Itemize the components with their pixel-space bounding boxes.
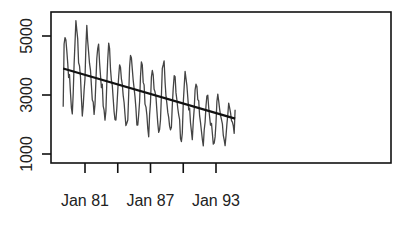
y-tick-label: 5000 (18, 18, 35, 54)
series-line (63, 21, 235, 146)
line-chart: 100030005000 Jan 81Jan 87Jan 93 (0, 0, 397, 226)
x-tick-label: Jan 87 (126, 192, 174, 209)
trend-line (63, 68, 235, 118)
x-tick-label: Jan 93 (192, 192, 240, 209)
y-axis: 100030005000 (18, 18, 51, 172)
x-axis: Jan 81Jan 87Jan 93 (61, 163, 240, 209)
y-tick-label: 3000 (18, 77, 35, 113)
y-tick-label: 1000 (18, 136, 35, 172)
x-tick-label: Jan 81 (61, 192, 109, 209)
